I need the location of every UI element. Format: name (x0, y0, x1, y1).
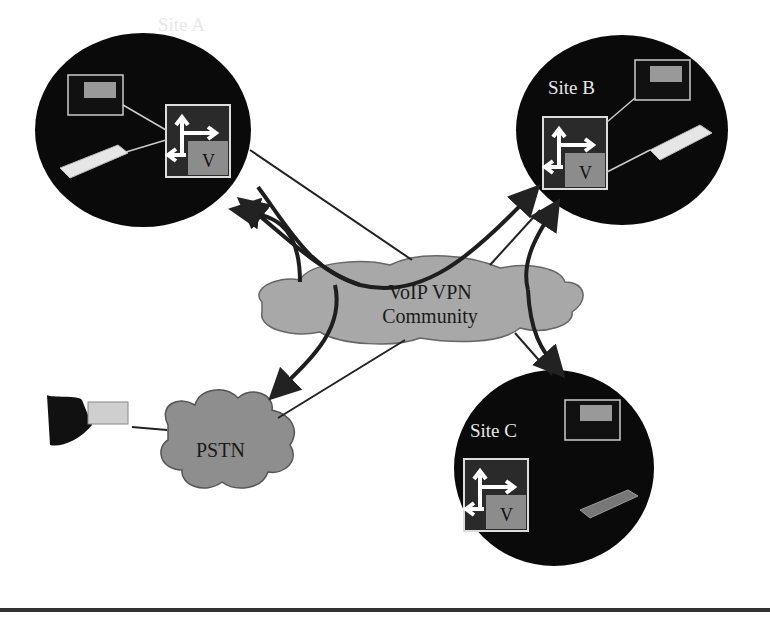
vpn-cloud-label-line2: Community (355, 304, 505, 328)
pstn-phone-icon (47, 395, 128, 446)
pstn-label: PSTN (196, 438, 245, 462)
site-b-label: Site B (548, 77, 595, 99)
site-c-ip-phone-icon (565, 400, 620, 440)
router-mark: V (202, 151, 215, 171)
site-a-label: Site A (158, 14, 205, 36)
bottom-rule (0, 608, 770, 612)
site-b-router-icon: V (543, 117, 607, 189)
site-c-router-icon: V (464, 459, 528, 531)
site-a-router-icon: V (166, 105, 230, 177)
vpn-cloud-label-line1: VoIP VPN (355, 280, 505, 304)
svg-text:V: V (500, 505, 513, 525)
svg-text:V: V (579, 163, 592, 183)
network-diagram: V V V (0, 0, 770, 618)
site-c-label: Site C (470, 420, 517, 442)
vpn-cloud-label: VoIP VPN Community (355, 280, 505, 328)
